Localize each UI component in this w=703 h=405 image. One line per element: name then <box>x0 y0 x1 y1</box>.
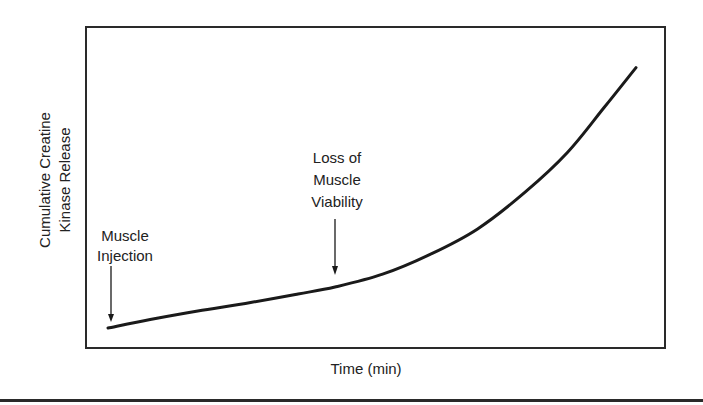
annotation-injection-line2: Injection <box>97 246 153 266</box>
annotation-viability-line1: Loss of <box>311 147 362 169</box>
chart-figure: Cumulative Creatine Kinase Release Time … <box>0 0 703 405</box>
annotation-viability-line2: Muscle <box>311 169 362 191</box>
x-axis-label: Time (min) <box>330 360 401 378</box>
ck-release-curve <box>108 68 636 328</box>
y-axis-label-line1: Cumulative Creatine <box>35 112 55 248</box>
annotation-loss-of-viability: Loss of Muscle Viability <box>311 147 362 213</box>
annotation-injection-line1: Muscle <box>97 226 153 246</box>
annotation-muscle-injection: Muscle Injection <box>97 226 153 266</box>
page-bottom-divider <box>0 399 703 402</box>
y-axis-label-line2: Kinase Release <box>55 112 75 248</box>
viability-arrow-icon <box>332 219 338 275</box>
annotation-viability-line3: Viability <box>311 191 362 213</box>
y-axis-label: Cumulative Creatine Kinase Release <box>35 112 75 248</box>
injection-arrow-icon <box>108 266 114 322</box>
